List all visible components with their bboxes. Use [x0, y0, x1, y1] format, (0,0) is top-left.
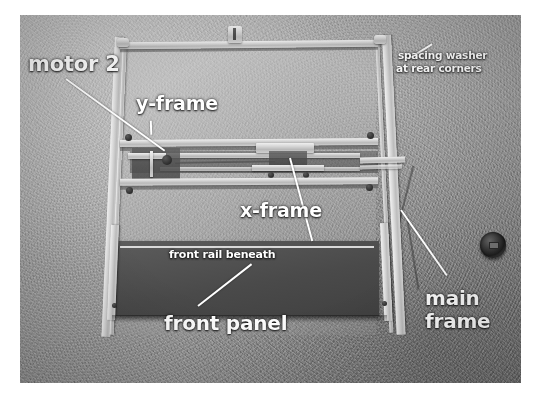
annotation-spacing-washer-line-2: at rear corners: [396, 63, 482, 74]
annotation-spacing-washer-line-1: spacing washer: [398, 50, 487, 61]
y-frame-bolt-left-top: [125, 134, 132, 141]
y-frame-carriage-top-strip: [160, 153, 360, 158]
right-outrigger-arm: [360, 156, 405, 163]
main-frame-right-lower-upright: [380, 223, 392, 321]
annotation-main-frame-line-1: main: [425, 288, 480, 309]
annotation-front-panel: front panel: [164, 313, 287, 334]
spacing-washer-left: [117, 38, 129, 47]
motor-2-mount-plate: [128, 153, 166, 159]
y-frame-bolt-right-bottom: [366, 184, 373, 191]
motor-2-shaft: [150, 151, 153, 177]
y-frame-bolt-left-bottom: [126, 187, 133, 194]
annotation-x-frame: x-frame: [240, 201, 322, 221]
annotation-y-frame: y-frame: [136, 94, 218, 114]
motor-2-pulley: [162, 155, 172, 165]
annotation-main-frame-line-2: frame: [425, 311, 490, 332]
top-centre-bracket-slot: [233, 28, 236, 40]
spacing-washer-right: [374, 35, 386, 44]
annotation-front-rail-beneath: front rail beneath: [169, 249, 275, 261]
wall-knob-slot: [489, 242, 499, 249]
main-frame-right-foot-bolt: [382, 301, 387, 306]
photograph: motor 2 y-frame x-frame front panel main…: [20, 15, 521, 383]
x-frame-carriage-rail: [252, 165, 324, 171]
y-frame-bolt-right-top: [367, 132, 374, 139]
annotation-motor-2: motor 2: [28, 53, 120, 75]
main-frame-left-foot-bolt: [112, 303, 117, 308]
